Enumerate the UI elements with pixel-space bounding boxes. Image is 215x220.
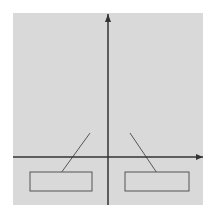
label-box-2x-squared bbox=[30, 172, 92, 191]
plot-area bbox=[0, 0, 215, 220]
label-box-x-squared bbox=[125, 172, 189, 191]
chart bbox=[0, 0, 215, 220]
